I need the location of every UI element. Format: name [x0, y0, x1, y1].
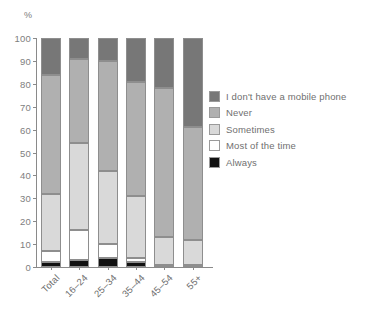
bar-segment — [126, 196, 146, 258]
bar-segment — [98, 61, 118, 171]
y-tick-mark — [33, 84, 36, 85]
x-tick-mark — [136, 267, 137, 270]
y-tick-mark — [33, 175, 36, 176]
legend-item-label: Never — [226, 107, 252, 118]
y-tick-label: 50 — [20, 147, 31, 158]
y-tick-mark — [33, 130, 36, 131]
bar-group — [126, 38, 146, 267]
legend-swatch-icon — [209, 124, 220, 135]
bar-segment — [69, 143, 89, 230]
bar-segment — [69, 38, 89, 59]
y-tick-label: 60 — [20, 124, 31, 135]
x-axis-tick-label: 45–54 — [148, 272, 175, 299]
y-tick-mark — [33, 221, 36, 222]
x-tick-mark — [164, 267, 165, 270]
x-axis-tick-label: 55+ — [184, 272, 204, 292]
x-axis-tick-label: 16–24 — [63, 272, 90, 299]
x-axis-tick-label: 25–34 — [91, 272, 118, 299]
bar-segment — [183, 127, 203, 239]
x-tick-mark — [51, 267, 52, 270]
bar-stack — [126, 38, 146, 267]
y-tick-label: 80 — [20, 78, 31, 89]
legend-item-label: Most of the time — [226, 140, 296, 151]
bar-stack — [183, 38, 203, 267]
bar-group — [41, 38, 61, 267]
y-tick-label: 30 — [20, 193, 31, 204]
bar-segment — [154, 38, 174, 88]
bar-stack — [154, 38, 174, 267]
legend-item-label: I don't have a mobile phone — [226, 91, 346, 102]
bar-segment — [98, 244, 118, 258]
x-tick-mark — [79, 267, 80, 270]
y-tick-label: 70 — [20, 101, 31, 112]
legend-item[interactable]: Sometimes — [209, 121, 364, 138]
y-tick-label: 20 — [20, 216, 31, 227]
legend-swatch-icon — [209, 107, 220, 118]
legend-item-label: Always — [226, 157, 257, 168]
bar-segment — [126, 82, 146, 197]
y-tick-mark — [33, 244, 36, 245]
bar-segment — [41, 194, 61, 251]
legend-item[interactable]: Always — [209, 154, 364, 171]
bar-stack — [41, 38, 61, 267]
y-tick-mark — [33, 107, 36, 108]
y-axis-line — [36, 38, 37, 267]
bar-group — [154, 38, 174, 267]
bar-segment — [41, 38, 61, 75]
bar-segment — [69, 59, 89, 144]
legend-swatch-icon — [209, 140, 220, 151]
bar-group — [69, 38, 89, 267]
bar-segment — [98, 258, 118, 267]
x-tick-mark — [108, 267, 109, 270]
bar-segment — [154, 88, 174, 237]
legend-item[interactable]: Never — [209, 105, 364, 122]
bar-segment — [69, 230, 89, 260]
y-tick-mark — [33, 38, 36, 39]
bar-segment — [41, 251, 61, 262]
bar-segment — [126, 258, 146, 263]
y-tick-label: 40 — [20, 170, 31, 181]
y-tick-mark — [33, 198, 36, 199]
chart-legend: I don't have a mobile phoneNeverSometime… — [209, 88, 364, 171]
stacked-bar-chart: % 0102030405060708090100 Total16–2425–34… — [0, 0, 367, 309]
bar-stack — [69, 38, 89, 267]
plot-area: 0102030405060708090100 Total16–2425–3435… — [36, 38, 211, 267]
x-axis-line — [36, 267, 213, 268]
y-tick-label: 100 — [15, 33, 31, 44]
bar-segment — [154, 237, 174, 264]
legend-swatch-icon — [209, 157, 220, 168]
y-tick-label: 90 — [20, 55, 31, 66]
legend-item[interactable]: Most of the time — [209, 138, 364, 155]
legend-item[interactable]: I don't have a mobile phone — [209, 88, 364, 105]
x-axis-tick-label: 35–44 — [120, 272, 147, 299]
bar-segment — [98, 171, 118, 244]
bar-group — [98, 38, 118, 267]
y-tick-mark — [33, 267, 36, 268]
y-tick-label: 10 — [20, 239, 31, 250]
bar-segment — [183, 38, 203, 127]
legend-swatch-icon — [209, 91, 220, 102]
x-tick-mark — [193, 267, 194, 270]
bar-segment — [41, 75, 61, 194]
y-axis-unit-label: % — [24, 10, 32, 20]
bar-segment — [183, 240, 203, 265]
y-tick-mark — [33, 153, 36, 154]
legend-item-label: Sometimes — [226, 124, 275, 135]
bar-segment — [126, 38, 146, 82]
bar-stack — [98, 38, 118, 267]
bar-segment — [69, 260, 89, 267]
y-tick-mark — [33, 61, 36, 62]
x-axis-tick-label: Total — [39, 272, 62, 295]
bar-segment — [98, 38, 118, 61]
bar-group — [183, 38, 203, 267]
y-tick-label: 0 — [26, 262, 31, 273]
